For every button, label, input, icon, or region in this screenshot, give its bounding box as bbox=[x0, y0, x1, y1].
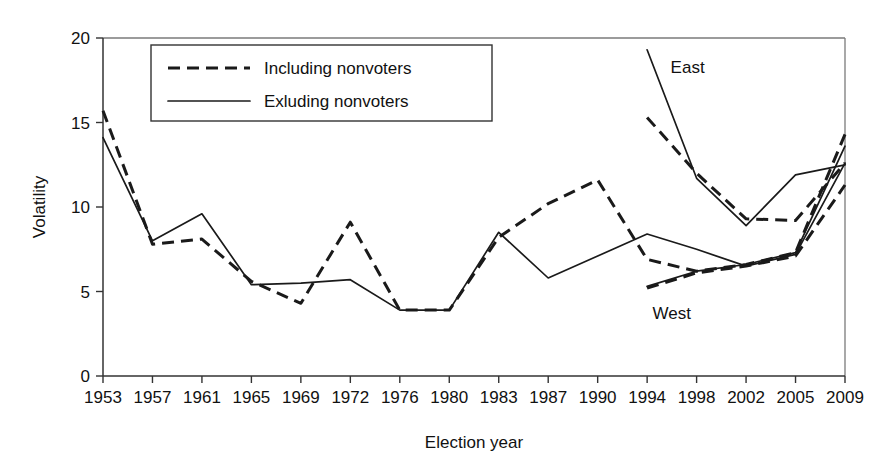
y-tick-label: 20 bbox=[71, 29, 90, 48]
legend-label-including: Including nonvoters bbox=[264, 59, 411, 78]
x-tick-label: 1987 bbox=[529, 388, 567, 407]
x-tick-label: 1983 bbox=[480, 388, 518, 407]
x-tick-label: 2009 bbox=[826, 388, 864, 407]
y-axis-tick-labels: 05101520 bbox=[71, 29, 90, 386]
x-tick-label: 2002 bbox=[727, 388, 765, 407]
annotation-west: West bbox=[653, 304, 692, 323]
x-tick-label: 1965 bbox=[232, 388, 270, 407]
x-tick-label: 1976 bbox=[381, 388, 419, 407]
legend-label-excluding: Exluding nonvoters bbox=[264, 92, 409, 111]
x-axis-tick-labels: 1953195719611965196919721976198019831987… bbox=[84, 388, 864, 407]
y-tick-label: 10 bbox=[71, 198, 90, 217]
y-tick-label: 5 bbox=[81, 283, 90, 302]
volatility-line-chart: 05101520 1953195719611965196919721976198… bbox=[0, 0, 896, 465]
chart-canvas: 05101520 1953195719611965196919721976198… bbox=[0, 0, 896, 465]
x-tick-label: 1994 bbox=[628, 388, 666, 407]
x-tick-label: 2005 bbox=[777, 388, 815, 407]
y-axis-ticks bbox=[96, 38, 103, 376]
y-tick-label: 0 bbox=[81, 367, 90, 386]
x-axis-title: Election year bbox=[425, 433, 524, 452]
series-line-including-nonvoters-west bbox=[647, 185, 845, 288]
y-tick-label: 15 bbox=[71, 114, 90, 133]
y-axis-title: Volatility bbox=[30, 175, 49, 238]
x-tick-label: 1972 bbox=[331, 388, 369, 407]
x-axis-ticks bbox=[103, 376, 845, 383]
annotation-east: East bbox=[671, 58, 705, 77]
x-tick-label: 1957 bbox=[134, 388, 172, 407]
series-line-exluding-nonvoters bbox=[103, 138, 845, 310]
x-tick-label: 1980 bbox=[430, 388, 468, 407]
chart-legend: Including nonvoters Exluding nonvoters bbox=[151, 45, 492, 121]
x-tick-label: 1969 bbox=[282, 388, 320, 407]
x-tick-label: 1998 bbox=[678, 388, 716, 407]
x-tick-label: 1961 bbox=[183, 388, 221, 407]
x-tick-label: 1953 bbox=[84, 388, 122, 407]
x-tick-label: 1990 bbox=[579, 388, 617, 407]
series-line-including-nonvoters bbox=[103, 111, 845, 310]
